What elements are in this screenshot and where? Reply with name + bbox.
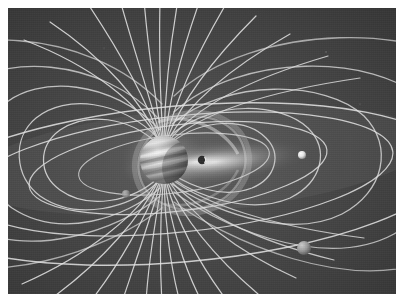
figure-caption bbox=[0, 294, 407, 306]
moon-lower-right bbox=[297, 241, 311, 255]
moon-left bbox=[122, 190, 130, 198]
moon-right-bright bbox=[298, 151, 306, 159]
magnetosphere-scene bbox=[8, 8, 396, 294]
figure-root bbox=[0, 0, 407, 306]
moon-inner-silhouette bbox=[198, 156, 206, 164]
magnetosphere-illustration-plate bbox=[8, 8, 396, 294]
